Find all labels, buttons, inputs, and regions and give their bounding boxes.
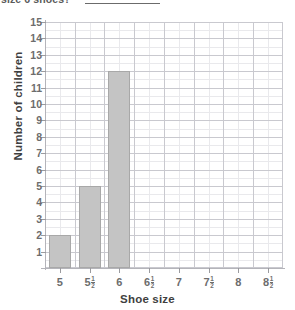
y-axis-title: Number of children	[12, 36, 24, 176]
y-axis-label: 15	[22, 17, 42, 27]
y-axis-label: 14	[22, 33, 42, 43]
y-axis-label: 4	[22, 197, 42, 207]
y-axis-label: 1	[22, 247, 42, 257]
x-axis-line	[41, 268, 285, 269]
x-axis-tick	[268, 268, 269, 273]
fraction-glyph: 12	[151, 276, 155, 290]
y-axis-label: 10	[22, 99, 42, 109]
x-axis-tick	[238, 268, 239, 273]
fraction-glyph: 12	[270, 276, 274, 290]
y-axis-label: 2	[22, 230, 42, 240]
bar	[79, 186, 101, 268]
x-axis-tick	[209, 268, 210, 273]
bar	[49, 235, 71, 268]
x-axis-tick	[90, 268, 91, 273]
y-axis-label: 12	[22, 66, 42, 76]
y-axis-label: 5	[22, 181, 42, 191]
y-axis-label: 6	[22, 165, 42, 175]
bar	[108, 71, 130, 268]
x-axis-title: Shoe size	[0, 293, 295, 305]
y-axis-line	[45, 20, 46, 270]
bar-chart: 123456789101112131415 5512661277128812 S…	[0, 0, 295, 310]
x-axis-tick	[179, 268, 180, 273]
y-axis-label: 13	[22, 50, 42, 60]
x-axis-tick	[60, 268, 61, 273]
fraction-glyph: 12	[91, 276, 95, 290]
y-axis-label: 11	[22, 83, 42, 93]
fraction-glyph: 12	[210, 276, 214, 290]
x-axis-tick	[119, 268, 120, 273]
grid-right-edge	[282, 22, 283, 268]
y-axis-label: 7	[22, 148, 42, 158]
y-axis-label: 8	[22, 132, 42, 142]
x-axis-label: 812	[248, 276, 288, 290]
plot-area	[45, 22, 283, 268]
y-axis-label: 9	[22, 115, 42, 125]
x-axis-tick	[149, 268, 150, 273]
y-axis-label: 3	[22, 214, 42, 224]
